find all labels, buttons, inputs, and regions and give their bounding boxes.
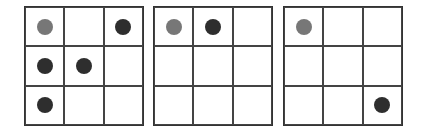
light-dot-icon [296, 19, 312, 35]
grid-cell [363, 7, 402, 46]
grid-cell [363, 46, 402, 85]
grid-cell [284, 7, 323, 46]
grid-1 [24, 6, 144, 126]
grid-cell [64, 86, 103, 125]
grid-cell [193, 86, 232, 125]
grid-cell [193, 7, 232, 46]
grid-cell [25, 7, 64, 46]
grid-2 [153, 6, 273, 126]
grid-cell [323, 86, 362, 125]
grid-cell [64, 7, 103, 46]
grid-cell [323, 46, 362, 85]
grid-cell [154, 46, 193, 85]
dark-dot-icon [115, 19, 131, 35]
grid-cell [25, 46, 64, 85]
grid-cell [154, 86, 193, 125]
dark-dot-icon [37, 97, 53, 113]
grid-3 [283, 6, 403, 126]
dark-dot-icon [205, 19, 221, 35]
grid-cell [104, 86, 143, 125]
light-dot-icon [166, 19, 182, 35]
dark-dot-icon [374, 97, 390, 113]
dark-dot-icon [76, 58, 92, 74]
grid-cell [363, 86, 402, 125]
grid-cell [323, 7, 362, 46]
grid-cell [154, 7, 193, 46]
grid-cell [193, 46, 232, 85]
light-dot-icon [37, 19, 53, 35]
grid-cell [233, 46, 272, 85]
grid-cell [233, 86, 272, 125]
grid-cell [233, 7, 272, 46]
grid-cell [25, 86, 64, 125]
grid-cell [104, 46, 143, 85]
grid-cell [104, 7, 143, 46]
grid-cell [284, 46, 323, 85]
grid-cell [284, 86, 323, 125]
dark-dot-icon [37, 58, 53, 74]
grid-cell [64, 46, 103, 85]
